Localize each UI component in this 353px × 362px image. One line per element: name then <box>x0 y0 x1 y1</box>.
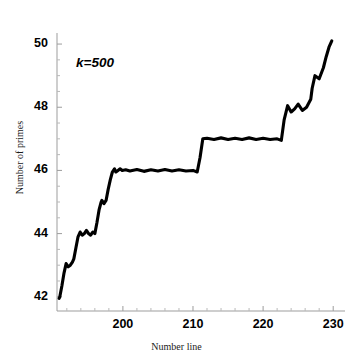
x-tick-label: 210 <box>173 317 213 331</box>
x-axis-ticks <box>67 306 333 311</box>
y-tick-label: 50 <box>20 36 48 50</box>
x-tick-label: 230 <box>313 317 353 331</box>
x-axis-title: Number line <box>0 341 353 352</box>
axis-lines <box>57 33 345 311</box>
chart-plot-area <box>0 0 353 362</box>
chart-figure: 4244464850 200210220230 k=500 Number of … <box>0 0 353 362</box>
annotation-k-label: k=500 <box>76 55 114 70</box>
y-axis-ticks <box>57 44 62 297</box>
y-tick-label: 44 <box>20 226 48 240</box>
x-tick-label: 200 <box>103 317 143 331</box>
x-tick-label: 220 <box>243 317 283 331</box>
y-axis-title: Number of primes <box>14 98 25 218</box>
data-series-line <box>59 41 332 298</box>
y-tick-label: 42 <box>20 289 48 303</box>
